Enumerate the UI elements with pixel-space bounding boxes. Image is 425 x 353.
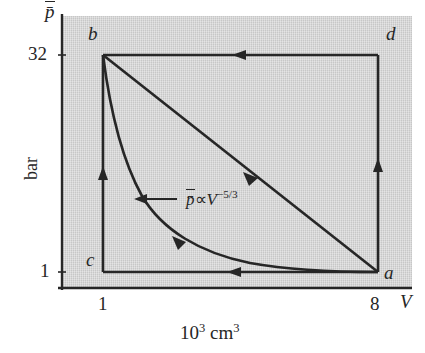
annotation-proportional-icon: ∝	[195, 190, 207, 209]
x-axis-symbol: V	[400, 292, 412, 311]
diagram-canvas	[0, 0, 425, 353]
arrowhead-a-to-d	[373, 158, 383, 172]
point-label-c: c	[86, 250, 94, 269]
x-unit-suffix: cm	[205, 322, 233, 343]
y-tick-label-1: 1	[40, 261, 50, 280]
arrowhead-a-to-c	[227, 267, 241, 277]
arrowhead-d-to-b	[232, 50, 246, 60]
annotation-exponent: −5/3	[217, 188, 238, 200]
y-tick-label-32: 32	[28, 44, 47, 63]
point-label-d: d	[386, 24, 396, 43]
x-unit-suffix-exponent: 3	[233, 321, 239, 335]
path-b-to-a-straight	[103, 55, 378, 272]
pv-diagram-figure: p̄ 32 1 bar b d c a 1 8 V 103 cm3 p̄∝V−5…	[0, 0, 425, 353]
x-unit-base: 10	[180, 322, 199, 343]
point-label-b: b	[88, 24, 98, 43]
y-axis-unit-label: bar	[22, 157, 40, 180]
x-tick-label-8: 8	[370, 294, 380, 313]
y-axis-symbol: p̄	[45, 2, 55, 21]
arrowhead-c-to-b	[98, 166, 108, 180]
x-axis-unit-label: 103 cm3	[180, 322, 240, 342]
annotation-v-symbol: V	[207, 190, 217, 209]
point-label-a: a	[384, 263, 394, 282]
annotation-p-symbol: p̄	[186, 191, 195, 208]
adiabat-annotation: p̄∝V−5/3	[186, 189, 238, 208]
x-tick-label-1: 1	[98, 294, 108, 313]
